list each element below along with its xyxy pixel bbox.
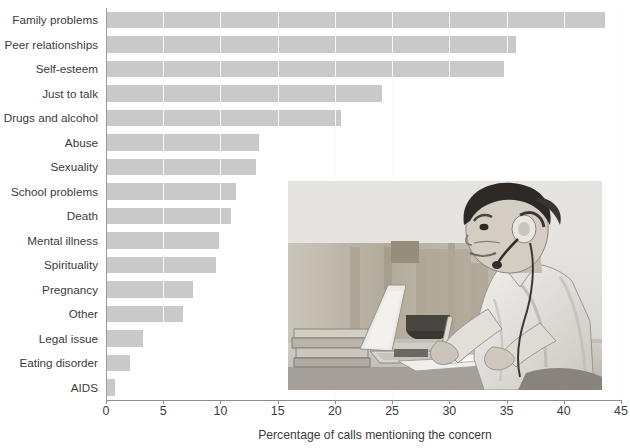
bar-row: Drugs and alcohol (106, 106, 621, 131)
bar-row: Just to talk (106, 82, 621, 107)
bar-row: Peer relationships (106, 33, 621, 58)
category-label: Eating disorder (19, 357, 98, 369)
category-label: School problems (11, 186, 98, 198)
bar-row: Family problems (106, 8, 621, 33)
category-label: Family problems (12, 14, 98, 26)
category-label: Mental illness (27, 235, 98, 247)
bar (106, 281, 193, 298)
category-label: AIDS (71, 382, 98, 394)
x-axis-line (106, 400, 622, 401)
bar (106, 306, 183, 323)
x-tick-label: 35 (500, 405, 514, 417)
x-axis-title: Percentage of calls mentioning the conce… (0, 428, 630, 442)
bar-row: Sexuality (106, 155, 621, 180)
category-label: Just to talk (42, 88, 98, 100)
x-tick-label: 25 (385, 405, 399, 417)
bar (106, 110, 341, 127)
gridline-45 (621, 8, 622, 400)
bar (106, 183, 236, 200)
bar (106, 208, 231, 225)
category-label: Peer relationships (4, 39, 98, 51)
category-label: Drugs and alcohol (4, 112, 98, 124)
bar (106, 12, 605, 29)
bar (106, 85, 382, 102)
category-label: Self-esteem (36, 63, 98, 75)
bar (106, 61, 504, 78)
category-label: Other (69, 308, 98, 320)
category-label: Sexuality (51, 161, 98, 173)
bar (106, 355, 130, 372)
x-tick-label: 30 (442, 405, 456, 417)
x-tick-label: 40 (557, 405, 571, 417)
x-tick-label: 0 (103, 405, 110, 417)
bar-chart-figure: Family problemsPeer relationshipsSelf-es… (0, 0, 630, 448)
category-label: Abuse (65, 137, 98, 149)
bar (106, 330, 143, 347)
x-tick-label: 20 (328, 405, 342, 417)
category-label: Death (67, 210, 98, 222)
category-label: Pregnancy (42, 284, 98, 296)
x-tick-label: 45 (614, 405, 628, 417)
x-tick-label: 15 (271, 405, 285, 417)
x-axis-title-text: Percentage of calls mentioning the conce… (258, 428, 492, 442)
bar (106, 257, 216, 274)
bar (106, 379, 115, 396)
call-center-counselor-photo (288, 181, 602, 390)
bar-row: Self-esteem (106, 57, 621, 82)
bar (106, 36, 516, 53)
bar (106, 232, 219, 249)
category-label: Legal issue (39, 333, 98, 345)
bar (106, 159, 256, 176)
x-tick-label: 5 (160, 405, 167, 417)
bar-row: Abuse (106, 131, 621, 156)
category-label: Spirituality (44, 259, 98, 271)
x-tick-label: 10 (214, 405, 228, 417)
bar (106, 134, 259, 151)
